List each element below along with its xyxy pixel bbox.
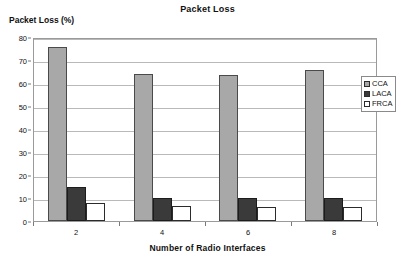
- y-tick-label: 50: [19, 103, 27, 112]
- x-tick-mark: [119, 222, 120, 226]
- x-tick-label: 2: [33, 222, 119, 240]
- chart-legend: CCALACAFRCA: [361, 76, 396, 112]
- bar-laca-6[interactable]: [238, 198, 257, 221]
- bar-laca-4[interactable]: [153, 198, 172, 221]
- bar-set: [219, 39, 276, 221]
- y-tick-mark: [28, 38, 31, 39]
- legend-swatch-icon: [364, 91, 370, 97]
- bar-set: [305, 39, 362, 221]
- y-tick-label: 70: [19, 57, 27, 66]
- legend-label: FRCA: [372, 100, 392, 108]
- bar-frca-2[interactable]: [86, 203, 105, 221]
- y-tick-label: 0: [23, 218, 27, 227]
- bar-laca-8[interactable]: [324, 198, 343, 221]
- legend-label: LACA: [372, 90, 392, 98]
- bar-frca-6[interactable]: [257, 207, 276, 221]
- y-tick-mark: [28, 84, 31, 85]
- y-tick-label: 80: [19, 34, 27, 43]
- x-tick-label: 6: [205, 222, 291, 240]
- x-tick-label: 8: [291, 222, 377, 240]
- bar-group: [291, 39, 377, 221]
- chart-title: Packet Loss: [0, 4, 415, 14]
- y-tick-label: 40: [19, 126, 27, 135]
- bar-frca-4[interactable]: [172, 206, 191, 221]
- y-tick-mark: [28, 153, 31, 154]
- bar-set: [48, 39, 105, 221]
- y-axis-ticks: 01020304050607080: [0, 38, 31, 222]
- y-tick-mark: [28, 199, 31, 200]
- x-tick-mark: [33, 222, 34, 226]
- plot-area: [33, 38, 377, 222]
- x-tick-label: 4: [119, 222, 205, 240]
- x-axis-title: Number of Radio Interfaces: [0, 243, 415, 253]
- x-tick-mark: [291, 222, 292, 226]
- bar-cca-2[interactable]: [48, 47, 67, 221]
- legend-swatch-icon: [364, 81, 370, 87]
- bar-group: [120, 39, 206, 221]
- y-tick-label: 60: [19, 80, 27, 89]
- legend-label: CCA: [372, 80, 388, 88]
- bar-cca-4[interactable]: [134, 74, 153, 221]
- legend-item-laca[interactable]: LACA: [364, 89, 392, 99]
- y-tick-mark: [28, 176, 31, 177]
- bar-group: [205, 39, 291, 221]
- x-axis-categories: 2468: [33, 222, 377, 240]
- y-tick-mark: [28, 61, 31, 62]
- y-tick-mark: [28, 130, 31, 131]
- bar-cca-6[interactable]: [219, 75, 238, 221]
- legend-item-cca[interactable]: CCA: [364, 79, 392, 89]
- legend-swatch-icon: [364, 101, 370, 107]
- y-axis-title: Packet Loss (%): [9, 15, 74, 25]
- y-tick-label: 20: [19, 172, 27, 181]
- y-tick-label: 30: [19, 149, 27, 158]
- x-tick-mark: [205, 222, 206, 226]
- y-tick-label: 10: [19, 195, 27, 204]
- legend-item-frca[interactable]: FRCA: [364, 99, 392, 109]
- bar-cca-8[interactable]: [305, 70, 324, 221]
- bar-laca-2[interactable]: [67, 187, 86, 222]
- bar-group: [34, 39, 120, 221]
- bar-groups: [34, 39, 376, 221]
- packet-loss-chart: Packet Loss Packet Loss (%) 010203040506…: [0, 0, 415, 260]
- bar-frca-8[interactable]: [343, 207, 362, 221]
- y-tick-mark: [28, 222, 31, 223]
- y-tick-mark: [28, 107, 31, 108]
- bar-set: [134, 39, 191, 221]
- x-tick-mark: [377, 222, 378, 226]
